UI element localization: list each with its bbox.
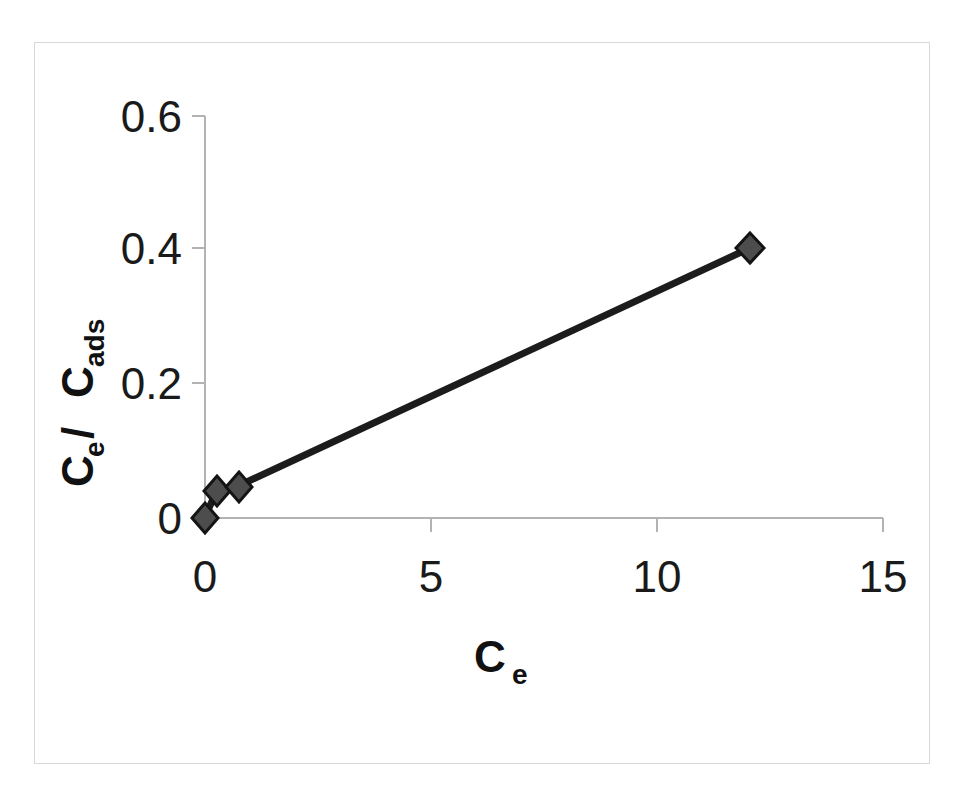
y-axis-title-separator: / [53,427,102,439]
data-point-marker [204,476,230,506]
series-line-langmuir [205,248,750,517]
y-tick-label-0.4: 0.4 [121,224,182,273]
x-tick-label-5: 5 [419,552,443,601]
y-axis-title: C e / C ads [53,319,110,487]
data-point-marker [226,472,252,502]
x-axis-title-sub: e [512,659,528,690]
y-axis-title-part2-sub: ads [79,319,110,367]
y-tick-label-0.6: 0.6 [121,92,182,141]
data-point-marker [736,233,764,263]
chart-plot-area: 0.6 0.4 0.2 0 0 5 10 15 C e C e / C ads [0,0,964,794]
y-tick-label-0.2: 0.2 [121,359,182,408]
x-tick-label-0: 0 [193,552,217,601]
y-axis-title-part1-sub: e [79,441,110,457]
y-axis-title-part1-main: C [53,455,102,487]
x-axis-title: C e [474,632,527,690]
data-point-marker [192,503,218,533]
x-tick-label-15: 15 [859,552,908,601]
figure-root: 0.6 0.4 0.2 0 0 5 10 15 C e C e / C ads [0,0,964,794]
x-tick-label-10: 10 [633,552,682,601]
y-axis-title-part2-main: C [53,366,102,398]
x-axis-title-main: C [474,632,506,681]
y-tick-label-0: 0 [158,494,182,543]
